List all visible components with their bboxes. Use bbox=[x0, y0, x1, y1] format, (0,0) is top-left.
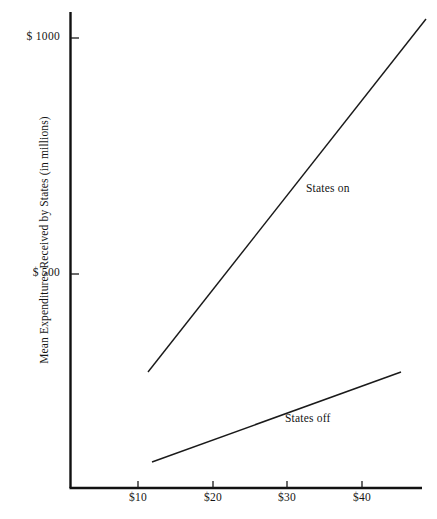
y-tick-label-500: $ 500 bbox=[2, 266, 60, 278]
series-label-states-on: States on bbox=[306, 182, 350, 194]
chart-figure: Mean Expenditures Received by States (in… bbox=[0, 0, 437, 519]
x-tick-label-20: $20 bbox=[193, 491, 233, 503]
chart-plot-area bbox=[0, 0, 437, 519]
x-tick-label-40: $40 bbox=[342, 491, 382, 503]
x-tick-label-10: $10 bbox=[118, 491, 158, 503]
series-line-states-on bbox=[148, 19, 426, 372]
y-tick-label-1000: $ 1000 bbox=[2, 30, 60, 42]
series-line-states-off bbox=[152, 372, 401, 462]
x-tick-label-30: $30 bbox=[267, 491, 307, 503]
y-axis-title: Mean Expenditures Received by States (in… bbox=[38, 100, 50, 380]
series-label-states-off: States off bbox=[285, 412, 331, 424]
